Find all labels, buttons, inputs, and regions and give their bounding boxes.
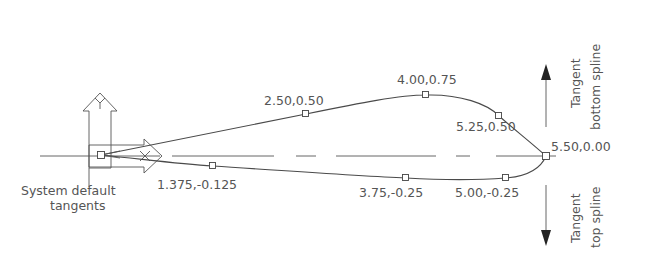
tangent-up-label-line2: bottom spline bbox=[588, 44, 603, 130]
label-point-7: 5.00,-0.25 bbox=[455, 185, 519, 200]
origin-label-line2: tangents bbox=[50, 198, 105, 213]
point-3[interactable] bbox=[423, 92, 429, 98]
point-7[interactable] bbox=[503, 175, 509, 181]
point-4[interactable] bbox=[496, 113, 502, 119]
tangent-down-label-line1: Tangent bbox=[568, 193, 583, 244]
origin-label-line1: System default bbox=[21, 183, 116, 198]
point-5[interactable] bbox=[543, 153, 550, 160]
arrow-up-icon bbox=[541, 64, 551, 127]
bottom-spline bbox=[101, 155, 546, 180]
tangent-down-label-line2: top spline bbox=[588, 186, 603, 248]
spline-diagram: 1.375,-0.125 2.50,0.50 4.00,0.75 5.25,0.… bbox=[0, 0, 648, 263]
y-axis-arrow-icon bbox=[83, 93, 117, 187]
tangent-up-label-line1: Tangent bbox=[568, 58, 583, 109]
arrow-down-icon bbox=[541, 185, 551, 246]
label-point-5: 5.50,0.00 bbox=[551, 139, 611, 154]
point-1[interactable] bbox=[210, 163, 216, 169]
label-point-4: 5.25,0.50 bbox=[456, 119, 516, 134]
label-point-2: 2.50,0.50 bbox=[264, 93, 324, 108]
label-point-3: 4.00,0.75 bbox=[397, 72, 457, 87]
label-point-1: 1.375,-0.125 bbox=[157, 177, 237, 192]
point-2[interactable] bbox=[303, 111, 309, 117]
point-6[interactable] bbox=[403, 175, 409, 181]
label-point-6: 3.75,-0.25 bbox=[359, 185, 423, 200]
point-origin[interactable] bbox=[98, 152, 105, 159]
